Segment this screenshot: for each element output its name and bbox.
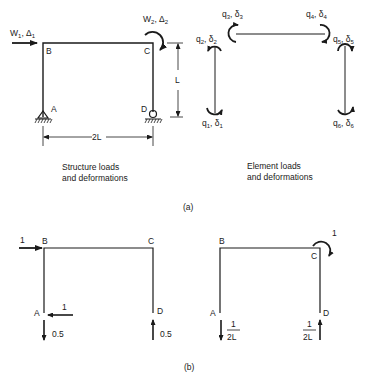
b-left-node-d: D (157, 306, 163, 316)
moment-q4-arrow (320, 25, 330, 42)
dimension-height-label: L (175, 75, 180, 85)
frame-diagram: B C A D W1, Δ1 W2, Δ2 L 2L Structure loa… (0, 0, 367, 382)
b-left-node-b: B (42, 236, 48, 246)
b-left-node-a: A (34, 308, 40, 318)
structure-frame (43, 43, 153, 117)
b-left-reaction-a-v-label: 0.5 (52, 329, 64, 339)
caption-element-line1: Element loads (247, 161, 301, 171)
node-label-a: A (51, 104, 57, 114)
label-q2: q2, δ2 (196, 34, 218, 45)
node-label-d: D (141, 104, 147, 114)
b-right-reaction-a-fraction: 1 2L (227, 319, 240, 342)
label-q5: q5, δ5 (333, 34, 355, 45)
frame-members (43, 43, 153, 117)
part-a-label: (a) (183, 202, 194, 212)
load-w1-label: W1, Δ1 (10, 28, 36, 39)
frame-b-right-members (220, 248, 320, 313)
b-left-reaction-a-h-label: 1 (62, 302, 67, 312)
caption-element-line2: and deformations (247, 172, 313, 182)
label-q1: q1, δ1 (202, 118, 224, 129)
label-q6: q6, δ6 (333, 118, 355, 129)
dimension-width-label: 2L (92, 132, 102, 142)
ground-hatch (35, 119, 52, 123)
caption-structure-line2: and deformations (62, 173, 128, 183)
ground-hatch (145, 119, 162, 123)
label-q4: q4, δ4 (306, 9, 328, 20)
part-b-label: (b) (184, 362, 195, 372)
element-members (215, 34, 345, 113)
node-label-c: C (144, 46, 150, 56)
label-q3: q3, δ3 (222, 9, 244, 20)
node-label-b: B (46, 46, 52, 56)
b-right-moment-label: 1 (332, 228, 337, 238)
roller-support-d (145, 111, 162, 124)
frame-b-left-members (44, 248, 153, 313)
fraction-numerator: 1 (231, 319, 236, 329)
b-right-node-d: D (323, 308, 329, 318)
fraction-denominator: 2L (303, 332, 313, 342)
b-right-node-b: B (219, 236, 225, 246)
b-left-reaction-d-v-label: 0.5 (160, 329, 172, 339)
load-w2-label: W2, Δ2 (143, 14, 169, 25)
moment-q3-arrow (228, 25, 238, 42)
b-right-reaction-d-fraction: 1 2L (303, 319, 316, 342)
fraction-denominator: 2L (227, 332, 237, 342)
fraction-numerator: 1 (307, 319, 312, 329)
caption-structure-line1: Structure loads (62, 162, 119, 172)
b-right-node-a: A (210, 308, 216, 318)
b-right-node-c: C (311, 251, 317, 261)
b-left-node-c: C (148, 236, 154, 246)
b-left-load-label: 1 (20, 235, 25, 245)
